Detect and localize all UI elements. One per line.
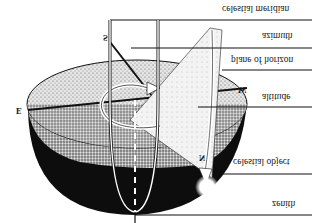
label-celestial-object: celestial object [233, 157, 290, 167]
compass-west: W [238, 85, 247, 94]
label-celestial-meridian: celestial meridian [222, 4, 289, 14]
compass-north: N [199, 153, 205, 162]
compass-east: E [16, 106, 22, 115]
label-altitude: altitude [262, 92, 291, 102]
label-zenith: zenith [272, 199, 295, 209]
label-azimuth: azimuth [262, 31, 293, 41]
label-plane-of-horizon: plane of horizon [231, 55, 293, 65]
compass-south: S [103, 33, 108, 42]
